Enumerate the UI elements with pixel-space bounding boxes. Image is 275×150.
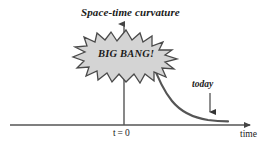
diagram-graphics	[0, 0, 275, 150]
figure-canvas: Space-time curvature BIG BANG! today t =…	[0, 0, 275, 150]
x-axis-label: time	[240, 130, 257, 140]
big-bang-label: BIG BANG!	[98, 49, 154, 60]
y-axis-label: Space-time curvature	[81, 7, 180, 18]
origin-tick-label: t = 0	[113, 129, 130, 139]
today-label: today	[192, 80, 213, 90]
